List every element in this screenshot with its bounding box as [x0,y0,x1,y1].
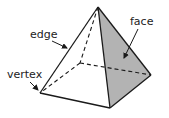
edge-label: edge [30,28,58,41]
vertex-arrow [30,82,38,90]
pyramid-diagram: edge vertex face [0,0,169,118]
vertex-label: vertex [7,68,43,81]
edge-arrow [52,41,67,48]
face-label: face [130,15,154,28]
